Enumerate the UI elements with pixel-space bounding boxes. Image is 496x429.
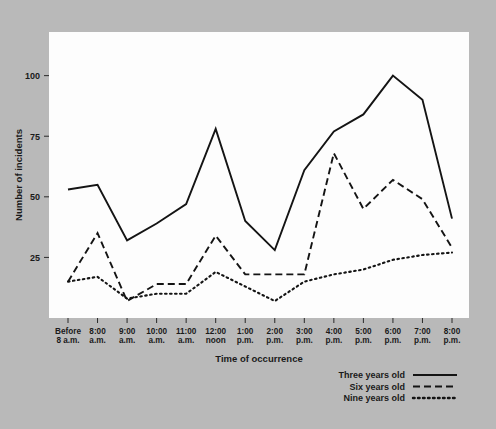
x-tick-label-line1: 9:00 [119, 327, 136, 336]
x-tick-label: 2:00p.m. [266, 327, 283, 345]
legend-label-three-years-old: Three years old [338, 370, 405, 380]
x-tick-label: 8:00a.m. [89, 327, 106, 345]
x-tick-label-line1: 10:00 [146, 327, 167, 336]
x-tick-label: 10:00a.m. [146, 327, 167, 345]
x-tick-label: 4:00p.m. [325, 327, 342, 345]
x-tick-label-line1: 1:00 [237, 327, 254, 336]
x-tick-label-line1: 8:00 [444, 327, 461, 336]
x-tick-label-line2: a.m. [119, 336, 135, 345]
x-tick-label-line2: a.m. [89, 336, 105, 345]
x-tick-label: 7:00p.m. [414, 327, 431, 345]
x-tick-label-line1: 5:00 [355, 327, 372, 336]
x-tick-label-line1: 4:00 [326, 327, 343, 336]
x-tick-label: 5:00p.m. [355, 327, 372, 345]
x-tick-label-line1: 8:00 [89, 327, 106, 336]
x-tick-label-line1: 2:00 [267, 327, 284, 336]
line-chart: 255075100Before8 a.m.8:00a.m.9:00a.m.10:… [0, 0, 496, 429]
x-tick-label-line1: 7:00 [414, 327, 431, 336]
y-tick-label: 75 [30, 132, 40, 142]
x-tick-label-line2: a.m. [178, 336, 194, 345]
x-tick-label: 12:00noon [205, 327, 226, 345]
x-tick-label-line1: 6:00 [385, 327, 402, 336]
x-axis-title: Time of occurrence [215, 353, 302, 364]
x-tick-label-line2: noon [206, 336, 226, 345]
x-tick-label: Before8 a.m. [55, 327, 81, 345]
series-line-three-years-old [68, 76, 452, 251]
x-tick-label-line2: p.m. [414, 336, 431, 345]
y-axis-title: Number of incidents [13, 129, 24, 221]
legend-label-six-years-old: Six years old [349, 382, 405, 392]
y-tick-label: 50 [30, 192, 40, 202]
x-tick-label-line2: a.m. [148, 336, 164, 345]
x-tick-label-line2: p.m. [385, 336, 402, 345]
series-line-six-years-old [68, 153, 452, 301]
x-tick-label: 9:00a.m. [119, 327, 136, 345]
x-tick-label-line2: p.m. [355, 336, 372, 345]
x-tick-label-line2: p.m. [296, 336, 313, 345]
x-tick-label: 11:00a.m. [176, 327, 197, 345]
x-tick-label-line2: p.m. [237, 336, 254, 345]
legend-label-nine-years-old: Nine years old [343, 393, 405, 403]
chart-figure: 255075100Before8 a.m.8:00a.m.9:00a.m.10:… [0, 0, 496, 429]
x-tick-label-line2: p.m. [444, 336, 461, 345]
y-tick-label: 100 [25, 71, 40, 81]
y-tick-label: 25 [30, 253, 40, 263]
x-tick-label-line1: 12:00 [205, 327, 226, 336]
x-tick-label: 1:00p.m. [237, 327, 254, 345]
x-tick-label: 3:00p.m. [296, 327, 313, 345]
x-tick-label-line1: 11:00 [176, 327, 197, 336]
x-tick-label: 6:00p.m. [385, 327, 402, 345]
x-tick-label-line2: p.m. [266, 336, 283, 345]
x-tick-label: 8:00p.m. [444, 327, 461, 345]
x-tick-label-line2: 8 a.m. [56, 336, 79, 345]
x-tick-label-line2: p.m. [325, 336, 342, 345]
series-line-nine-years-old [68, 253, 452, 301]
x-tick-label-line1: Before [55, 327, 81, 336]
x-tick-label-line1: 3:00 [296, 327, 313, 336]
